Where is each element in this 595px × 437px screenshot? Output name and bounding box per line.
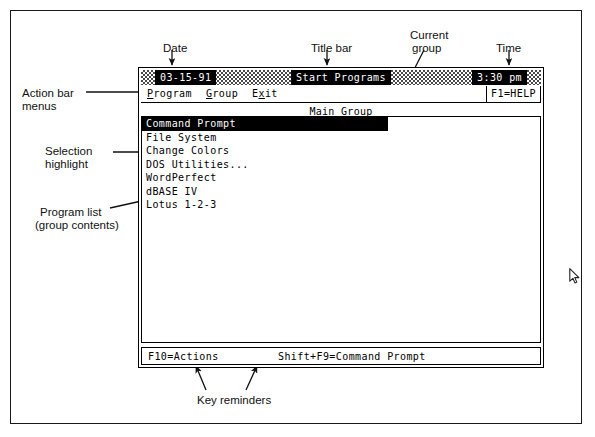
program-item-command-prompt[interactable]: Command Prompt (142, 117, 388, 131)
help-key-badge[interactable]: F1=HELP (486, 86, 541, 103)
annotation-action-bar-line2: menus (22, 100, 57, 114)
dos-shell-screen: 03-15-91 Start Programs 3:30 pm Program … (138, 67, 544, 368)
time-display: 3:30 pm (472, 70, 527, 85)
annotation-current-group-line2: group (412, 42, 441, 56)
annotation-time: Time (496, 42, 521, 56)
annotation-title-bar: Title bar (311, 42, 352, 56)
window-title: Start Programs (291, 70, 391, 85)
program-item-dos-utilities[interactable]: DOS Utilities... (142, 158, 540, 172)
program-list-pane: Command Prompt File System Change Colors… (141, 116, 541, 343)
annotation-program-list-line2: (group contents) (35, 219, 119, 233)
key-reminder-bar: F10=Actions Shift+F9=Command Prompt (141, 347, 541, 365)
annotation-key-reminders: Key reminders (197, 394, 271, 408)
date-display: 03-15-91 (155, 70, 216, 85)
title-bar: 03-15-91 Start Programs 3:30 pm (141, 70, 541, 85)
program-item-change-colors[interactable]: Change Colors (142, 144, 540, 158)
program-item-wordperfect[interactable]: WordPerfect (142, 171, 540, 185)
mouse-pointer-icon (569, 268, 580, 284)
menu-item-exit[interactable]: Exit (252, 87, 278, 101)
annotation-selection-line2: highlight (45, 158, 88, 172)
menu-exit-label: it (265, 88, 278, 99)
menu-item-program[interactable]: Program (147, 87, 192, 101)
menu-group-label: roup (212, 88, 238, 99)
menu-program-label: rogram (153, 88, 192, 99)
key-reminder-shift-f9[interactable]: Shift+F9=Command Prompt (278, 349, 426, 364)
program-item-lotus-123[interactable]: Lotus 1-2-3 (142, 198, 540, 212)
annotation-current-group: Current (410, 29, 448, 43)
annotation-selection: Selection (45, 145, 92, 159)
key-reminder-f10[interactable]: F10=Actions (148, 349, 219, 364)
program-item-dbase-iv[interactable]: dBASE IV (142, 185, 540, 199)
annotation-program-list: Program list (40, 206, 101, 220)
program-item-file-system[interactable]: File System (142, 131, 540, 145)
menu-item-group[interactable]: Group (206, 87, 238, 101)
action-bar: Program Group Exit F1=HELP (141, 86, 541, 103)
annotation-action-bar: Action bar (22, 87, 74, 101)
annotation-date: Date (163, 42, 187, 56)
